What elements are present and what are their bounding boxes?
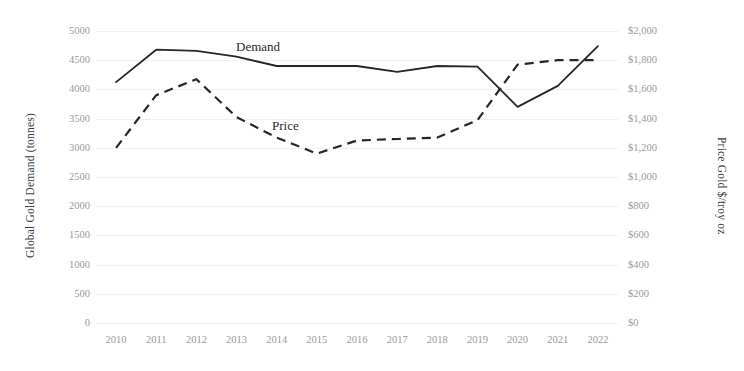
y-axis-right-tick-label: $200 <box>628 289 688 300</box>
y-axis-right-tick-label: $1,400 <box>628 114 688 125</box>
y-axis-right-tick-label: $400 <box>628 260 688 271</box>
y-axis-left-tick-label: 5000 <box>44 26 90 37</box>
y-axis-right-tick-label: $1,600 <box>628 84 688 95</box>
y-axis-right-tick-label: $2,000 <box>628 26 688 37</box>
y-axis-left-tick-label: 500 <box>44 289 90 300</box>
demand-line <box>116 46 598 107</box>
y-axis-left-tick-label: 2500 <box>44 172 90 183</box>
y-axis-left-tick-label: 2000 <box>44 201 90 212</box>
price-line <box>116 60 598 153</box>
x-axis-tick-label: 2022 <box>573 335 623 346</box>
y-axis-left-tick-label: 3000 <box>44 143 90 154</box>
plot-area <box>96 31 618 323</box>
price-series-label: Price <box>272 118 299 134</box>
y-axis-left-tick-label: 3500 <box>44 114 90 125</box>
y-axis-left-title: Global Gold Demand (tonnes) <box>22 0 38 371</box>
y-axis-right-tick-label: $600 <box>628 230 688 241</box>
y-axis-right-tick-label: $0 <box>628 318 688 329</box>
series-lines <box>96 31 618 323</box>
y-axis-right-tick-label: $800 <box>628 201 688 212</box>
demand-series-label: Demand <box>236 39 280 55</box>
y-axis-left-tick-label: 0 <box>44 318 90 329</box>
y-axis-left-tick-label: 1500 <box>44 230 90 241</box>
chart-container: Global Gold Demand (tonnes) Price Gold $… <box>0 0 744 371</box>
y-axis-right-tick-label: $1,000 <box>628 172 688 183</box>
y-axis-right-tick-label: $1,800 <box>628 55 688 66</box>
gridline <box>96 323 618 324</box>
y-axis-left-tick-label: 4000 <box>44 84 90 95</box>
y-axis-right-tick-label: $1,200 <box>628 143 688 154</box>
y-axis-left-tick-label: 4500 <box>44 55 90 66</box>
y-axis-right-title: Price Gold $/troy oz <box>714 0 730 371</box>
y-axis-left-tick-label: 1000 <box>44 260 90 271</box>
